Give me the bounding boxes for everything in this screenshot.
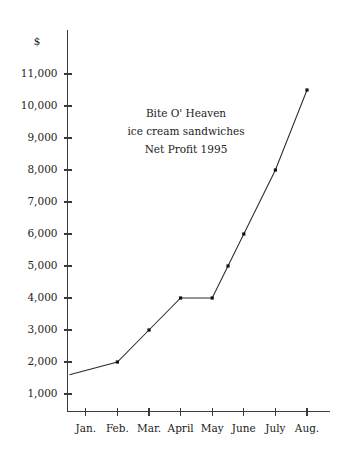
y-axis-unit-label: $	[34, 35, 41, 47]
chart-title-line: Bite O' Heaven	[146, 107, 226, 119]
data-point-marker	[274, 168, 277, 171]
data-point-marker	[226, 264, 229, 267]
y-tick-label: 8,000	[27, 163, 57, 175]
line-chart: 1,0002,0003,0004,0005,0006,0007,0008,000…	[0, 0, 348, 458]
y-tick-label: 9,000	[27, 131, 57, 143]
y-tick-label: 4,000	[27, 291, 57, 303]
x-tick-label: June	[231, 422, 256, 434]
x-tick-label: April	[167, 422, 195, 434]
y-tick-label: 2,000	[27, 355, 57, 367]
chart-title-line: Net Profit 1995	[145, 143, 228, 155]
data-point-marker	[305, 88, 308, 91]
data-point-marker	[116, 360, 119, 363]
chart-title-line: ice cream sandwiches	[127, 125, 244, 137]
data-point-marker	[147, 328, 150, 331]
y-tick-label: 10,000	[21, 99, 58, 111]
x-tick-label: Aug.	[294, 422, 319, 434]
y-tick-label: 5,000	[27, 259, 57, 271]
y-tick-label: 6,000	[27, 227, 57, 239]
x-tick-label: Feb.	[106, 422, 129, 434]
y-tick-label: 7,000	[27, 195, 57, 207]
y-tick-label: 3,000	[27, 323, 57, 335]
chart-canvas: 1,0002,0003,0004,0005,0006,0007,0008,000…	[0, 0, 348, 458]
data-point-marker	[242, 232, 245, 235]
x-tick-label: Jan.	[75, 422, 97, 434]
data-point-marker	[211, 296, 214, 299]
x-tick-label: July	[264, 422, 285, 434]
y-tick-label: 1,000	[27, 387, 57, 399]
y-tick-label: 11,000	[21, 67, 58, 79]
x-tick-label: Mar.	[137, 422, 161, 434]
x-tick-label: May	[201, 422, 224, 434]
data-point-marker	[179, 296, 182, 299]
